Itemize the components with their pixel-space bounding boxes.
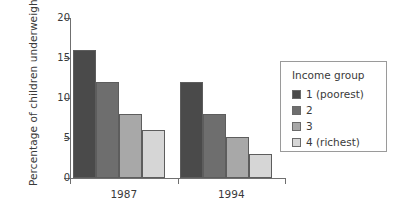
y-axis-tick-label: 20	[42, 12, 70, 23]
bar	[203, 114, 226, 178]
legend-swatch-icon	[292, 122, 301, 131]
x-axis-group-label: 1994	[201, 188, 261, 200]
legend-swatch-icon	[292, 106, 301, 115]
legend-item-list: 1 (poorest)234 (richest)	[292, 86, 364, 150]
legend-item[interactable]: 3	[292, 118, 364, 134]
legend-item-label: 1 (poorest)	[306, 89, 364, 100]
bar	[73, 50, 96, 178]
y-axis-title: Percentage of children underweight	[27, 0, 39, 186]
y-axis-tick-label: 5	[42, 132, 70, 143]
legend-swatch-icon	[292, 90, 301, 99]
bar	[96, 82, 119, 178]
legend-item-label: 4 (richest)	[306, 137, 360, 148]
bar	[226, 137, 249, 178]
x-axis-group-label: 1987	[94, 188, 154, 200]
legend-item[interactable]: 1 (poorest)	[292, 86, 364, 102]
legend-title: Income group	[292, 69, 364, 81]
y-axis-tick-label: 10	[42, 92, 70, 103]
y-axis-tick-label: 15	[42, 52, 70, 63]
x-axis-tick	[285, 179, 286, 184]
y-axis-tick-label: 0	[42, 172, 70, 183]
x-axis-tick	[70, 179, 71, 184]
bar-chart: Percentage of children underweight 05101…	[0, 0, 399, 218]
legend-item[interactable]: 2	[292, 102, 364, 118]
bar	[142, 130, 165, 178]
legend-item-label: 2	[306, 105, 313, 116]
x-axis-tick	[178, 179, 179, 184]
bar	[249, 154, 272, 178]
bar	[180, 82, 203, 178]
legend-swatch-icon	[292, 138, 301, 147]
plot-area	[70, 18, 285, 178]
bar	[119, 114, 142, 178]
legend-item[interactable]: 4 (richest)	[292, 134, 364, 150]
legend-item-label: 3	[306, 121, 313, 132]
legend: Income group 1 (poorest)234 (richest)	[280, 61, 387, 152]
